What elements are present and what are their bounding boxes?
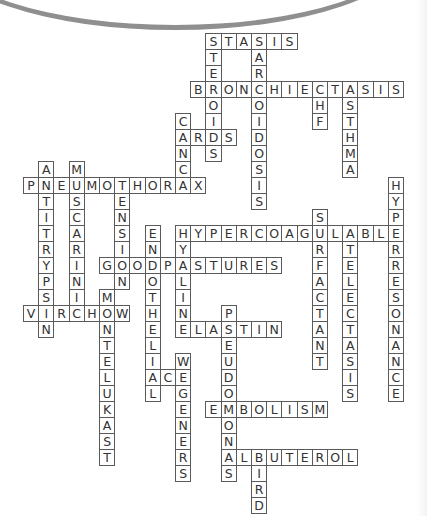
crossword-cell[interactable]: N bbox=[388, 353, 404, 370]
crossword-cell[interactable]: A bbox=[281, 225, 297, 242]
crossword-cell[interactable]: H bbox=[388, 177, 404, 194]
crossword-cell[interactable]: E bbox=[114, 193, 130, 210]
crossword-cell[interactable]: S bbox=[205, 145, 221, 162]
crossword-cell[interactable]: I bbox=[266, 33, 282, 50]
crossword-cell[interactable]: O bbox=[251, 97, 267, 114]
crossword-cell[interactable]: L bbox=[342, 449, 358, 466]
crossword-cell[interactable]: P bbox=[38, 273, 54, 290]
crossword-cell[interactable]: R bbox=[236, 257, 252, 274]
crossword-cell[interactable]: I bbox=[175, 289, 191, 306]
crossword-cell[interactable]: T bbox=[236, 321, 252, 338]
crossword-cell[interactable]: T bbox=[342, 321, 358, 338]
crossword-cell[interactable]: A bbox=[342, 337, 358, 354]
crossword-cell[interactable]: L bbox=[373, 225, 389, 242]
crossword-cell[interactable]: I bbox=[342, 369, 358, 386]
crossword-cell[interactable]: D bbox=[251, 129, 267, 146]
crossword-cell[interactable]: I bbox=[251, 177, 267, 194]
crossword-cell[interactable]: E bbox=[342, 257, 358, 274]
crossword-cell[interactable]: E bbox=[145, 321, 161, 338]
crossword-cell[interactable]: H bbox=[84, 305, 100, 322]
crossword-cell[interactable]: I bbox=[373, 81, 389, 98]
crossword-cell[interactable]: E bbox=[388, 385, 404, 402]
crossword-cell[interactable]: L bbox=[266, 401, 282, 418]
crossword-cell[interactable]: H bbox=[342, 129, 358, 146]
crossword-cell[interactable]: F bbox=[312, 257, 328, 274]
crossword-cell[interactable]: P bbox=[160, 257, 176, 274]
crossword-cell[interactable]: S bbox=[342, 97, 358, 114]
crossword-cell[interactable]: M bbox=[312, 401, 328, 418]
crossword-cell[interactable]: S bbox=[221, 321, 237, 338]
crossword-cell[interactable]: P bbox=[221, 305, 237, 322]
crossword-cell[interactable]: T bbox=[221, 33, 237, 50]
crossword-cell[interactable]: T bbox=[205, 257, 221, 274]
crossword-cell[interactable]: O bbox=[221, 385, 237, 402]
crossword-cell[interactable]: E bbox=[388, 273, 404, 290]
crossword-cell[interactable]: O bbox=[251, 145, 267, 162]
crossword-cell[interactable]: N bbox=[266, 321, 282, 338]
crossword-cell[interactable]: A bbox=[236, 33, 252, 50]
crossword-cell[interactable]: E bbox=[342, 289, 358, 306]
crossword-cell[interactable]: S bbox=[266, 257, 282, 274]
crossword-cell[interactable]: C bbox=[69, 209, 85, 226]
crossword-cell[interactable]: A bbox=[312, 273, 328, 290]
crossword-cell[interactable]: N bbox=[221, 433, 237, 450]
crossword-cell[interactable]: A bbox=[251, 49, 267, 66]
crossword-cell[interactable]: E bbox=[297, 449, 313, 466]
crossword-cell[interactable]: S bbox=[175, 465, 191, 482]
crossword-cell[interactable]: O bbox=[327, 449, 343, 466]
crossword-cell[interactable]: O bbox=[266, 225, 282, 242]
crossword-cell[interactable]: T bbox=[281, 449, 297, 466]
crossword-cell[interactable]: M bbox=[342, 145, 358, 162]
crossword-cell[interactable]: E bbox=[175, 401, 191, 418]
crossword-cell[interactable]: S bbox=[251, 161, 267, 178]
crossword-cell[interactable]: H bbox=[145, 305, 161, 322]
crossword-cell[interactable]: R bbox=[251, 481, 267, 498]
crossword-cell[interactable]: L bbox=[327, 225, 343, 242]
crossword-cell[interactable]: S bbox=[388, 81, 404, 98]
crossword-cell[interactable]: O bbox=[221, 81, 237, 98]
crossword-cell[interactable]: A bbox=[175, 257, 191, 274]
crossword-cell[interactable]: C bbox=[175, 161, 191, 178]
crossword-cell[interactable]: E bbox=[297, 81, 313, 98]
crossword-cell[interactable]: D bbox=[205, 129, 221, 146]
crossword-cell[interactable]: T bbox=[99, 449, 115, 466]
crossword-cell[interactable]: L bbox=[175, 273, 191, 290]
crossword-cell[interactable]: D bbox=[145, 257, 161, 274]
crossword-cell[interactable]: N bbox=[175, 417, 191, 434]
crossword-cell[interactable]: M bbox=[69, 161, 85, 178]
crossword-cell[interactable]: G bbox=[99, 257, 115, 274]
crossword-cell[interactable]: L bbox=[145, 385, 161, 402]
crossword-cell[interactable]: H bbox=[129, 177, 145, 194]
crossword-cell[interactable]: R bbox=[69, 241, 85, 258]
crossword-cell[interactable]: I bbox=[38, 209, 54, 226]
crossword-cell[interactable]: G bbox=[297, 225, 313, 242]
crossword-cell[interactable]: A bbox=[388, 337, 404, 354]
crossword-cell[interactable]: N bbox=[38, 177, 54, 194]
crossword-cell[interactable]: E bbox=[175, 321, 191, 338]
crossword-cell[interactable]: O bbox=[205, 97, 221, 114]
crossword-cell[interactable]: E bbox=[175, 369, 191, 386]
crossword-cell[interactable]: K bbox=[99, 401, 115, 418]
crossword-cell[interactable]: B bbox=[357, 225, 373, 242]
crossword-cell[interactable]: O bbox=[129, 257, 145, 274]
crossword-cell[interactable]: Y bbox=[388, 193, 404, 210]
crossword-cell[interactable]: R bbox=[388, 241, 404, 258]
crossword-cell[interactable]: Y bbox=[38, 257, 54, 274]
crossword-cell[interactable]: I bbox=[251, 465, 267, 482]
crossword-cell[interactable]: T bbox=[327, 81, 343, 98]
crossword-cell[interactable]: U bbox=[69, 177, 85, 194]
crossword-cell[interactable]: D bbox=[221, 369, 237, 386]
crossword-cell[interactable]: R bbox=[251, 65, 267, 82]
crossword-cell[interactable]: S bbox=[221, 465, 237, 482]
crossword-cell[interactable]: L bbox=[236, 449, 252, 466]
crossword-cell[interactable]: E bbox=[205, 65, 221, 82]
crossword-cell[interactable]: C bbox=[175, 113, 191, 130]
crossword-cell[interactable]: C bbox=[388, 369, 404, 386]
crossword-cell[interactable]: S bbox=[205, 33, 221, 50]
crossword-cell[interactable]: W bbox=[175, 353, 191, 370]
crossword-cell[interactable]: C bbox=[342, 305, 358, 322]
crossword-cell[interactable]: A bbox=[342, 81, 358, 98]
crossword-cell[interactable]: E bbox=[205, 401, 221, 418]
crossword-cell[interactable]: L bbox=[190, 321, 206, 338]
crossword-cell[interactable]: U bbox=[99, 385, 115, 402]
